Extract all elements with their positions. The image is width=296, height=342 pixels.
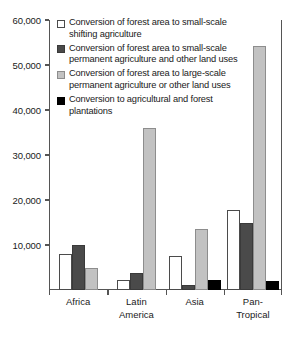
- legend-label: Conversion of forest area to small-scale…: [69, 17, 227, 40]
- legend-item[interactable]: Conversion of forest area to small-scale…: [57, 17, 269, 40]
- bar: [72, 245, 85, 290]
- x-axis-tick-mark: [166, 290, 167, 295]
- y-axis-tick-label: 50,000: [13, 60, 45, 71]
- legend-label-line: shifting agriculture: [69, 29, 227, 41]
- bar: [227, 210, 240, 290]
- y-axis-tick: 50,000: [13, 59, 49, 71]
- legend-label-line: permanent agriculture or other land uses: [69, 80, 230, 92]
- legend-item[interactable]: Conversion of forest area to large-scale…: [57, 68, 269, 91]
- legend: Conversion of forest area to small-scale…: [57, 17, 269, 120]
- bar: [85, 268, 98, 291]
- y-axis-tick: 30,000: [13, 149, 49, 161]
- x-axis-label-line: Africa: [49, 296, 107, 309]
- x-axis-tick-mark: [107, 290, 108, 295]
- y-axis-tick-label: 30,000: [13, 150, 45, 161]
- legend-swatch-icon: [57, 20, 65, 28]
- x-axis-label: Asia: [166, 296, 224, 309]
- x-axis-tick-mark: [281, 290, 282, 295]
- legend-label-line: Conversion of forest area to large-scale: [69, 68, 230, 80]
- x-axis-label: LatinAmerica: [107, 296, 165, 321]
- bar: [59, 254, 72, 290]
- y-axis-tick: 40,000: [13, 104, 49, 116]
- legend-label-line: Conversion of forest area to small-scale: [69, 43, 238, 55]
- legend-label-line: permanent agriculture and other land use…: [69, 54, 238, 66]
- x-axis-labels: AfricaLatinAmericaAsiaPan-Tropical: [49, 296, 282, 340]
- bar-chart: 60,00050,00040,00030,00020,00010,000 Afr…: [0, 0, 296, 342]
- x-axis-tick-mark: [224, 290, 225, 295]
- legend-swatch-icon: [57, 45, 65, 53]
- y-axis-tick-label: 10,000: [13, 240, 45, 251]
- x-axis-label-line: America: [107, 309, 165, 322]
- bar: [130, 273, 143, 290]
- y-axis-tick-label: 60,000: [13, 15, 45, 26]
- x-axis-tick-mark: [49, 290, 50, 295]
- bar: [240, 223, 253, 291]
- x-axis-label-line: Pan-: [224, 296, 282, 309]
- y-axis-tick: 10,000: [13, 239, 49, 251]
- y-axis-tick: 20,000: [13, 194, 49, 206]
- x-axis-label: Pan-Tropical: [224, 296, 282, 321]
- x-axis-label-line: Latin: [107, 296, 165, 309]
- x-axis-label: Africa: [49, 296, 107, 309]
- legend-swatch-icon: [57, 71, 65, 79]
- legend-swatch-icon: [57, 97, 65, 105]
- y-axis-tick-label: 20,000: [13, 195, 45, 206]
- bar: [208, 280, 221, 290]
- legend-label-line: Conversion of forest area to small-scale: [69, 17, 227, 29]
- legend-label-line: Conversion to agricultural and forest: [69, 94, 213, 106]
- bar: [143, 128, 156, 290]
- x-axis-label-line: Asia: [166, 296, 224, 309]
- legend-label: Conversion of forest area to large-scale…: [69, 68, 230, 91]
- legend-label: Conversion of forest area to small-scale…: [69, 43, 238, 66]
- bar: [117, 280, 130, 290]
- bar: [169, 256, 182, 290]
- legend-item[interactable]: Conversion of forest area to small-scale…: [57, 43, 269, 66]
- bar: [195, 229, 208, 290]
- legend-label-line: plantations: [69, 106, 213, 118]
- bar: [266, 281, 279, 290]
- y-axis: 60,00050,00040,00030,00020,00010,000: [0, 20, 49, 290]
- legend-label: Conversion to agricultural and forestpla…: [69, 94, 213, 117]
- x-axis-label-line: Tropical: [224, 309, 282, 322]
- legend-item[interactable]: Conversion to agricultural and forestpla…: [57, 94, 269, 117]
- y-axis-tick-label: 40,000: [13, 105, 45, 116]
- y-axis-tick: 60,000: [13, 14, 49, 26]
